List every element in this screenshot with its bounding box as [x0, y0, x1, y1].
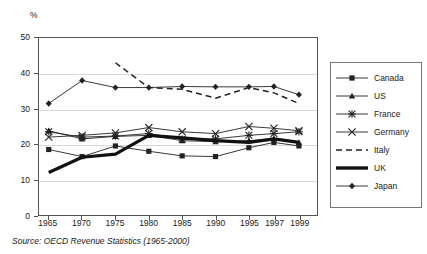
data-point-diamond: [46, 100, 52, 106]
legend-item-uk[interactable]: UK: [335, 159, 417, 177]
source-caption: Source: OECD Revenue Statistics (1965-20…: [12, 236, 190, 246]
legend-item-japan[interactable]: Japan: [335, 177, 417, 195]
x-axis-tick-mark: [275, 216, 276, 220]
series-line: [49, 135, 299, 172]
legend-symbol-none-icon: [335, 160, 369, 176]
legend-label: Italy: [369, 145, 390, 155]
y-axis-tick-label: 40: [8, 68, 30, 78]
legend-label: Germany: [369, 127, 409, 137]
x-axis-tick-mark: [182, 216, 183, 220]
legend-label: France: [369, 109, 400, 119]
data-point-diamond: [79, 77, 85, 83]
series-uk: [49, 135, 299, 172]
x-axis-tick-mark: [48, 216, 49, 220]
x-axis-tick-mark: [216, 216, 217, 220]
legend-item-germany[interactable]: Germany: [335, 123, 417, 141]
y-axis-tick-label: 30: [8, 104, 30, 114]
legend-symbol-triangle-icon: [335, 88, 369, 104]
data-point-diamond: [296, 91, 302, 97]
data-point-square: [180, 153, 185, 158]
series-line: [49, 127, 299, 138]
x-axis-tick-mark: [300, 216, 301, 220]
data-series-layer: [39, 38, 317, 215]
series-japan: [46, 77, 302, 106]
x-axis-tick-mark: [149, 216, 150, 220]
data-point-diamond: [271, 83, 277, 89]
legend-symbol-diamond-icon: [335, 178, 369, 194]
chart-legend: CanadaUSFranceGermanyItalyUKJapan: [330, 62, 422, 208]
data-point-square: [349, 75, 354, 80]
data-point-asterisk: [245, 132, 253, 140]
x-axis-tick-mark: [81, 216, 82, 220]
y-axis-tick-label: 0: [8, 211, 30, 221]
legend-item-france[interactable]: France: [335, 105, 417, 123]
data-point-square: [113, 143, 118, 148]
data-point-asterisk: [78, 133, 86, 141]
data-point-asterisk: [348, 110, 356, 118]
data-point-square: [246, 145, 251, 150]
series-line: [49, 80, 299, 103]
legend-item-canada[interactable]: Canada: [335, 69, 417, 87]
y-axis-tick-label: 20: [8, 139, 30, 149]
legend-symbol-square-icon: [335, 70, 369, 86]
plot-area: [38, 37, 318, 216]
legend-symbol-none-icon: [335, 142, 369, 158]
x-axis-tick-mark: [249, 216, 250, 220]
x-axis-tick-mark: [115, 216, 116, 220]
y-axis-unit-label: %: [30, 10, 38, 20]
data-point-diamond: [112, 84, 118, 90]
series-line: [49, 142, 299, 156]
legend-symbol-asterisk-icon: [335, 106, 369, 122]
chart-figure: % 01020304050 19651970197519801985199019…: [0, 0, 427, 254]
series-italy: [115, 63, 298, 104]
legend-item-us[interactable]: US: [335, 87, 417, 105]
legend-label: Canada: [369, 73, 404, 83]
legend-label: US: [369, 91, 386, 101]
y-axis-tick-label: 50: [8, 32, 30, 42]
series-line: [115, 63, 298, 104]
data-point-diamond: [213, 84, 219, 90]
data-point-square: [46, 147, 51, 152]
data-point-asterisk: [295, 128, 303, 136]
y-axis-tick-label: 10: [8, 175, 30, 185]
data-point-diamond: [349, 183, 355, 189]
legend-item-italy[interactable]: Italy: [335, 141, 417, 159]
data-point-square: [146, 149, 151, 154]
data-point-square: [213, 154, 218, 159]
legend-symbol-cross-icon: [335, 124, 369, 140]
data-point-diamond: [146, 84, 152, 90]
data-point-diamond: [246, 84, 252, 90]
legend-label: Japan: [369, 181, 397, 191]
legend-label: UK: [369, 163, 386, 173]
y-axis-tick-mark: [34, 216, 38, 217]
